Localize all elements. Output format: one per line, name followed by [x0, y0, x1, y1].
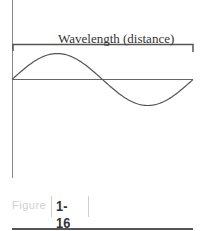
figure-number: 1-16: [56, 197, 71, 231]
figure-diagram: Wavelength (distance) Figure 1-16: [0, 0, 207, 231]
bottom-rule: [12, 228, 193, 230]
caption-separator: [51, 196, 52, 217]
caption-separator: [88, 196, 89, 217]
figure-word: Figure: [12, 199, 46, 211]
wavelength-label: Wavelength (distance): [58, 31, 174, 47]
